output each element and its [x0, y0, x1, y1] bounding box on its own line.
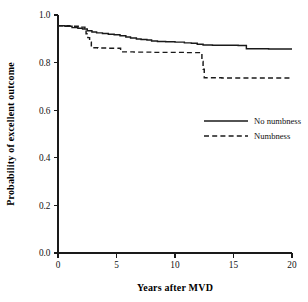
series-line-no-numbness — [58, 26, 292, 49]
y-tick-label: 0.0 — [39, 248, 51, 258]
legend: No numbnessNumbness — [204, 116, 302, 141]
legend-label: No numbness — [254, 116, 302, 126]
y-tick-label: 0.6 — [39, 106, 51, 116]
x-tick-label: 5 — [114, 260, 119, 270]
x-tick-label: 0 — [56, 260, 61, 270]
kaplan-meier-plot: 0.00.20.40.60.81.0 05101520 No numbnessN… — [0, 0, 308, 302]
legend-label: Numbness — [254, 131, 291, 141]
x-tick-label: 10 — [170, 260, 180, 270]
y-axis-title: Probability of excellent outcome — [5, 62, 16, 206]
y-axis-tick-group: 0.00.20.40.60.81.0 — [39, 10, 58, 258]
x-tick-label: 20 — [287, 260, 297, 270]
y-tick-label: 0.4 — [39, 153, 51, 163]
y-tick-label: 0.8 — [39, 58, 51, 68]
x-tick-label: 15 — [229, 260, 239, 270]
x-axis-tick-group: 05101520 — [56, 253, 297, 270]
x-axis-title: Years after MVD — [137, 282, 213, 293]
y-tick-label: 1.0 — [39, 10, 51, 20]
series-line-numbness — [58, 26, 292, 78]
y-tick-label: 0.2 — [39, 201, 51, 211]
chart-figure: 0.00.20.40.60.81.0 05101520 No numbnessN… — [0, 0, 308, 302]
